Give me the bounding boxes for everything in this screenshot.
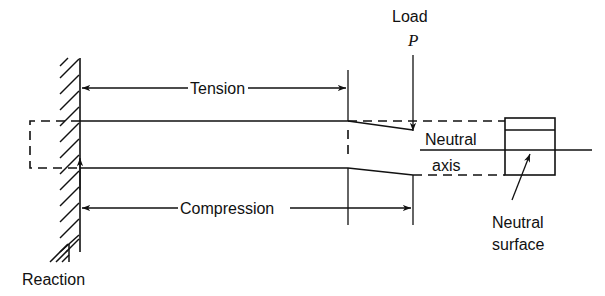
wall-hatching	[60, 58, 79, 252]
neutral-surface-leader	[512, 154, 530, 200]
original-beam-dashed-lines	[348, 121, 505, 175]
beam-body	[80, 121, 413, 175]
tension-label: Tension	[190, 80, 245, 97]
load-symbol-label: P	[407, 31, 418, 50]
cross-section-outline	[505, 118, 555, 175]
beam-bending-diagram: Reaction Neutral surface Neutral axis	[0, 0, 605, 296]
neutral-axis-label-line2: axis	[432, 157, 460, 174]
compression-label: Compression	[180, 200, 274, 217]
load-label: Load	[392, 8, 428, 25]
reaction-label: Reaction	[22, 271, 85, 288]
beam-bottom-edge	[80, 168, 413, 175]
dimension-extension-lines	[348, 70, 413, 225]
beam-top-edge	[80, 121, 413, 130]
cross-section-box	[505, 118, 555, 175]
neutral-surface-label-line1: Neutral	[492, 214, 544, 231]
reaction-label-hatch	[50, 244, 69, 262]
diagram-canvas: Reaction Neutral surface Neutral axis	[0, 0, 605, 296]
wall-support	[60, 58, 80, 252]
neutral-surface-label-line2: surface	[492, 236, 545, 253]
neutral-axis-label-line1: Neutral	[425, 131, 477, 148]
